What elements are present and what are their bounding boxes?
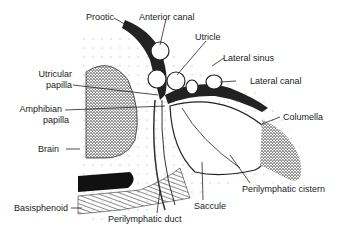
utricle-shape-1 [148, 70, 166, 88]
label-anterior-canal: Anterior canal [139, 12, 195, 22]
utricle-shape-2 [167, 72, 185, 90]
label-columella: Columella [283, 112, 323, 122]
label-perilymphatic-cistern: Perilymphatic cistern [242, 184, 325, 194]
label-utricular-papilla-line2: papilla [20, 80, 72, 90]
label-brain: Brain [38, 144, 59, 154]
lateral-sinus-shape [186, 80, 198, 94]
label-saccule: Saccule [194, 201, 226, 211]
label-perilymphatic-duct: Perilymphatic duct [108, 214, 182, 224]
inner-ear-diagram: Prootic Anterior canal Utricle Lateral s… [0, 0, 342, 239]
label-prootic: Prootic [86, 12, 114, 22]
label-amphibian-papilla-line1: Amphibian [10, 104, 62, 114]
label-lateral-canal: Lateral canal [250, 76, 302, 86]
label-amphibian-papilla-line2: papilla [10, 115, 69, 125]
label-utricle: Utricle [195, 32, 221, 42]
label-lateral-sinus: Lateral sinus [223, 53, 274, 63]
label-utricular-papilla-line1: Utricular [20, 69, 72, 79]
label-basisphenoid: Basisphenoid [14, 203, 68, 213]
lateral-canal-shape [206, 75, 222, 89]
